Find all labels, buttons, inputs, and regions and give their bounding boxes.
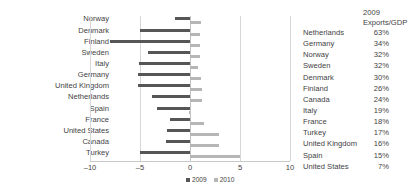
table-row: Turkey17% bbox=[303, 128, 419, 139]
plot-area bbox=[90, 16, 290, 161]
table-cell-value: 16% bbox=[363, 139, 389, 148]
x-axis-line bbox=[90, 161, 290, 162]
table-cell-value: 19% bbox=[363, 106, 389, 115]
table-cell-country: Sweden bbox=[303, 61, 330, 70]
table-cell-value: 30% bbox=[363, 73, 389, 82]
table-row: United Kingdom16% bbox=[303, 139, 419, 150]
table-cell-country: Finland bbox=[303, 84, 328, 93]
bar-2009 bbox=[140, 29, 190, 32]
table-cell-value: 32% bbox=[363, 50, 389, 59]
bar-2009 bbox=[110, 40, 190, 43]
table-cell-value: 63% bbox=[363, 28, 389, 37]
x-tick-label: 0 bbox=[170, 163, 210, 172]
bar-group bbox=[90, 128, 290, 139]
chart-page: NorwayDenmarkFinlandSwedenItalyGermanyUn… bbox=[0, 0, 419, 195]
bar-group bbox=[90, 139, 290, 150]
x-tick-label: –5 bbox=[120, 163, 160, 172]
x-axis-tick-labels: –10–50510 bbox=[90, 163, 290, 175]
exports-gdp-table: 2009 Exports/GDP Netherlands63%Germany34… bbox=[303, 8, 419, 173]
table-cell-country: United Kingdom bbox=[303, 139, 357, 148]
bar-group bbox=[90, 94, 290, 105]
bar-2009 bbox=[138, 84, 190, 87]
table-row: Italy19% bbox=[303, 106, 419, 117]
table-cell-value: 24% bbox=[363, 95, 389, 104]
bar-2009 bbox=[148, 51, 190, 54]
bar-2009 bbox=[157, 107, 190, 110]
bar-group bbox=[90, 38, 290, 49]
bar-group bbox=[90, 83, 290, 94]
table-cell-value: 7% bbox=[363, 162, 389, 171]
bar-2010 bbox=[190, 55, 200, 58]
bar-group bbox=[90, 27, 290, 38]
bar-group bbox=[90, 49, 290, 60]
table-cell-country: Denmark bbox=[303, 73, 334, 82]
bar-2009 bbox=[140, 151, 190, 154]
bar-2010 bbox=[190, 44, 200, 47]
bar-2010 bbox=[190, 99, 202, 102]
table-cell-country: Turkey bbox=[303, 128, 326, 137]
legend-swatch bbox=[186, 178, 190, 182]
x-tick-label: 5 bbox=[220, 163, 260, 172]
table-row: Netherlands63% bbox=[303, 28, 419, 39]
bar-2010 bbox=[190, 66, 198, 69]
bar-2010 bbox=[190, 144, 219, 147]
x-tick-label: –10 bbox=[70, 163, 110, 172]
table-cell-country: France bbox=[303, 117, 327, 126]
legend-item[interactable]: 2010 bbox=[214, 176, 235, 183]
bar-group bbox=[90, 16, 290, 27]
table-cell-value: 32% bbox=[363, 61, 389, 70]
table-cell-value: 18% bbox=[363, 117, 389, 126]
bar-2009 bbox=[166, 140, 190, 143]
bar-group bbox=[90, 72, 290, 83]
bar-2009 bbox=[139, 62, 190, 65]
table-cell-country: Norway bbox=[303, 50, 329, 59]
table-row: Canada24% bbox=[303, 95, 419, 106]
table-row: Denmark30% bbox=[303, 73, 419, 84]
bar-group bbox=[90, 150, 290, 161]
table-row: Germany34% bbox=[303, 39, 419, 50]
bar-group bbox=[90, 105, 290, 116]
bar-2010 bbox=[190, 33, 200, 36]
table-header-year: 2009 bbox=[363, 8, 419, 17]
table-row: France18% bbox=[303, 117, 419, 128]
table-cell-country: Spain bbox=[303, 151, 322, 160]
bar-2010 bbox=[190, 122, 204, 125]
bar-2009 bbox=[170, 118, 190, 121]
bar-group bbox=[90, 116, 290, 127]
bar-2009 bbox=[167, 129, 190, 132]
table-cell-country: Italy bbox=[303, 106, 317, 115]
bar-2010 bbox=[189, 111, 190, 114]
bar-2010 bbox=[190, 77, 201, 80]
table-row: United States7% bbox=[303, 162, 419, 173]
gridline bbox=[290, 16, 291, 161]
table-header-metric: Exports/GDP bbox=[363, 18, 419, 27]
bar-group bbox=[90, 61, 290, 72]
legend-label: 2010 bbox=[220, 176, 235, 183]
table-row: Sweden32% bbox=[303, 61, 419, 72]
table-row: Spain15% bbox=[303, 151, 419, 162]
legend-swatch bbox=[214, 178, 218, 182]
table-header: 2009 Exports/GDP bbox=[303, 8, 419, 28]
table-cell-country: United States bbox=[303, 162, 349, 171]
table-cell-value: 26% bbox=[363, 84, 389, 93]
table-cell-value: 34% bbox=[363, 39, 389, 48]
bar-2010 bbox=[190, 21, 201, 24]
bar-2009 bbox=[138, 73, 190, 76]
table-cell-country: Canada bbox=[303, 95, 330, 104]
bar-2010 bbox=[190, 155, 240, 158]
table-cell-value: 17% bbox=[363, 128, 389, 137]
table-cell-country: Germany bbox=[303, 39, 334, 48]
chart-legend: 20092010 bbox=[186, 176, 234, 183]
table-cell-value: 15% bbox=[363, 151, 389, 160]
bar-2009 bbox=[152, 95, 190, 98]
legend-label: 2009 bbox=[192, 176, 207, 183]
bar-2010 bbox=[190, 133, 219, 136]
table-row: Finland26% bbox=[303, 84, 419, 95]
table-cell-country: Netherlands bbox=[303, 28, 344, 37]
bar-2009 bbox=[175, 17, 190, 20]
bar-2010 bbox=[190, 88, 202, 91]
table-body: Netherlands63%Germany34%Norway32%Sweden3… bbox=[303, 28, 419, 173]
table-row: Norway32% bbox=[303, 50, 419, 61]
legend-item[interactable]: 2009 bbox=[186, 176, 207, 183]
